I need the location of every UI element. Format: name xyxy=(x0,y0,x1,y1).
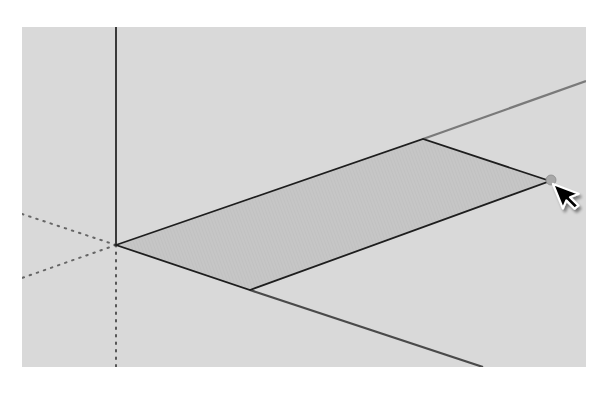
green-axis-solid xyxy=(423,81,586,139)
arrow-pointer-icon xyxy=(553,184,579,209)
red-axis-solid xyxy=(250,290,483,367)
rectangle-face[interactable] xyxy=(116,139,550,290)
green-axis-dotted xyxy=(22,245,116,278)
red-axis-dotted xyxy=(22,214,116,245)
scene-drawing[interactable] xyxy=(0,0,607,399)
app-canvas xyxy=(0,0,607,399)
